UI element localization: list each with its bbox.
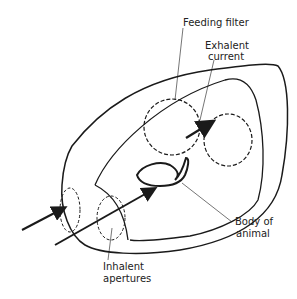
feeding-filter-left (144, 99, 200, 155)
label-exhalent-2: current (208, 51, 244, 62)
leader-feeding-filter (175, 28, 183, 100)
leader-inhalent (108, 228, 112, 260)
label-body-1: Body of (235, 216, 274, 227)
label-inhalent-1: Inhalent (103, 261, 144, 272)
label-inhalent-2: apertures (103, 273, 151, 284)
label-feeding-filter: Feeding filter (183, 17, 250, 28)
leader-exhalent (200, 60, 214, 120)
label-exhalent-1: Exhalent (205, 40, 249, 51)
inhalent-arrow-1 (22, 208, 64, 230)
inhalent-arrow-2 (55, 189, 154, 245)
leader-body (182, 183, 232, 222)
label-body-2: animal (236, 228, 270, 239)
animal-body (137, 158, 188, 186)
diagram-canvas: Feeding filter Exhalent current Body of … (0, 0, 297, 299)
